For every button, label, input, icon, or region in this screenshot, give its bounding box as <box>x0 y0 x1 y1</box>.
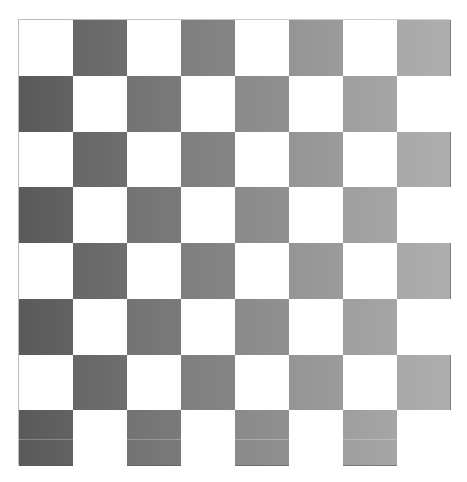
square-r4-c6 <box>343 243 397 299</box>
square-r3-c3 <box>181 187 235 243</box>
square-r6-c5 <box>289 355 343 411</box>
square-r6-c7 <box>397 355 451 411</box>
square-r2-c1 <box>73 132 127 188</box>
square-r5-c0 <box>19 299 73 355</box>
square-r5-c7 <box>397 299 451 355</box>
square-r2-c6 <box>343 132 397 188</box>
square-r2-c3 <box>181 132 235 188</box>
square-r4-c7 <box>397 243 451 299</box>
square-r1-c3 <box>181 76 235 132</box>
square-r5-c4 <box>235 299 289 355</box>
square-r5-c1 <box>73 299 127 355</box>
square-r1-c1 <box>73 76 127 132</box>
square-r3-c6 <box>343 187 397 243</box>
square-r6-c3 <box>181 355 235 411</box>
square-r0-c4 <box>235 20 289 76</box>
square-r2-c5 <box>289 132 343 188</box>
square-r0-c0 <box>19 20 73 76</box>
square-r4-c0 <box>19 243 73 299</box>
square-r3-c0 <box>19 187 73 243</box>
square-r6-c2 <box>127 355 181 411</box>
square-r0-c5 <box>289 20 343 76</box>
square-r1-c5 <box>289 76 343 132</box>
square-r3-c4 <box>235 187 289 243</box>
square-r1-c6 <box>343 76 397 132</box>
square-r4-c4 <box>235 243 289 299</box>
square-r1-c0 <box>19 76 73 132</box>
square-r0-c1 <box>73 20 127 76</box>
square-r3-c5 <box>289 187 343 243</box>
square-r5-c3 <box>181 299 235 355</box>
square-r4-c1 <box>73 243 127 299</box>
square-r2-c2 <box>127 132 181 188</box>
square-r6-c6 <box>343 355 397 411</box>
square-r6-c4 <box>235 355 289 411</box>
square-r2-c0 <box>19 132 73 188</box>
square-r2-c4 <box>235 132 289 188</box>
square-r1-c7 <box>397 76 451 132</box>
square-r6-c0 <box>19 355 73 411</box>
square-r5-c5 <box>289 299 343 355</box>
square-r4-c5 <box>289 243 343 299</box>
square-r0-c6 <box>343 20 397 76</box>
square-r5-c2 <box>127 299 181 355</box>
square-r3-c7 <box>397 187 451 243</box>
checkerboard <box>18 19 450 465</box>
square-r0-c3 <box>181 20 235 76</box>
square-r3-c1 <box>73 187 127 243</box>
square-r4-c2 <box>127 243 181 299</box>
square-r1-c2 <box>127 76 181 132</box>
square-r0-c7 <box>397 20 451 76</box>
square-r0-c2 <box>127 20 181 76</box>
square-r1-c4 <box>235 76 289 132</box>
square-r5-c6 <box>343 299 397 355</box>
square-r6-c1 <box>73 355 127 411</box>
square-r4-c3 <box>181 243 235 299</box>
square-r2-c7 <box>397 132 451 188</box>
scan-line <box>18 439 450 440</box>
square-r3-c2 <box>127 187 181 243</box>
